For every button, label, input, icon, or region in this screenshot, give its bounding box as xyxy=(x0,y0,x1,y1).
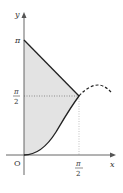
y-tick-half-pi-den: 2 xyxy=(14,98,18,106)
origin-label: O xyxy=(14,159,21,168)
graph: y x O π π 2 π 2 xyxy=(0,0,123,193)
y-tick-pi: π xyxy=(14,36,21,45)
x-axis-label: x xyxy=(110,160,115,169)
x-tick-half-pi-den: 2 xyxy=(76,170,80,178)
y-tick-half-pi-num: π xyxy=(13,88,19,96)
x-axis-arrow-icon xyxy=(110,153,116,158)
y-axis-label: y xyxy=(14,10,20,19)
y-axis-arrow-icon xyxy=(22,12,27,18)
dashed-continuation xyxy=(79,85,111,96)
x-tick-half-pi-num: π xyxy=(75,160,81,168)
